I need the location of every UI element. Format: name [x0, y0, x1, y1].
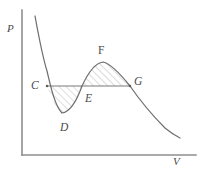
point-marker-g: [129, 85, 132, 88]
pressure-axis-label: P: [7, 23, 14, 34]
point-label-g: G: [134, 76, 142, 88]
point-label-d: D: [60, 122, 68, 134]
hatched-regions-group: [40, 56, 138, 122]
upper-hatched-area: [76, 56, 138, 92]
point-label-f: F: [98, 45, 104, 57]
pv-diagram-figure: P V C D E F G: [0, 0, 202, 177]
point-marker-c: [46, 85, 49, 88]
point-label-e: E: [85, 93, 92, 105]
volume-axis-label: V: [173, 156, 180, 167]
point-label-c: C: [31, 80, 39, 92]
